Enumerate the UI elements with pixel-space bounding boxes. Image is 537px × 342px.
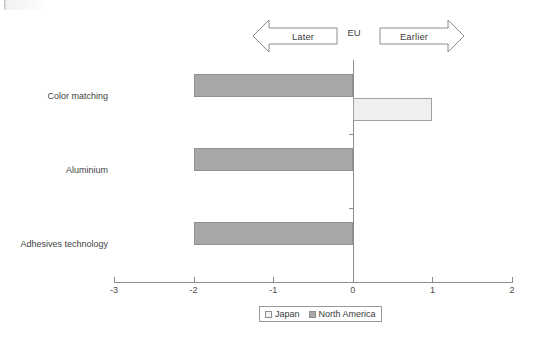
bar-north-america xyxy=(194,74,353,97)
legend-label-north-america: North America xyxy=(319,309,376,319)
x-axis-tick xyxy=(512,277,513,283)
legend-swatch-north-america xyxy=(309,311,316,318)
category-label: Adhesives technology xyxy=(0,239,108,249)
x-axis-tick-label: -3 xyxy=(99,285,129,295)
category-axis-tick xyxy=(349,134,354,135)
bar-chart: Later EU Earlier -3-2-1012Color matching… xyxy=(0,0,537,342)
zero-axis-line xyxy=(353,60,354,283)
category-label: Aluminium xyxy=(0,165,108,175)
bar-north-america xyxy=(194,222,353,245)
legend-item-north-america: North America xyxy=(309,309,376,319)
chart-legend: Japan North America xyxy=(259,306,382,322)
x-axis-tick xyxy=(353,277,354,283)
category-axis-tick xyxy=(349,208,354,209)
x-axis-tick xyxy=(432,277,433,283)
x-axis-line xyxy=(114,282,512,283)
x-axis-tick xyxy=(114,277,115,283)
bar-japan xyxy=(353,98,433,121)
x-axis-tick-label: -2 xyxy=(179,285,209,295)
x-axis-tick-label: 0 xyxy=(338,285,368,295)
plot-area: -3-2-1012Color matchingAluminiumAdhesive… xyxy=(0,0,537,342)
legend-swatch-japan xyxy=(265,311,272,318)
legend-item-japan: Japan xyxy=(265,309,300,319)
x-axis-tick-label: -1 xyxy=(258,285,288,295)
x-axis-tick-label: 1 xyxy=(417,285,447,295)
category-label: Color matching xyxy=(0,91,108,101)
x-axis-tick xyxy=(273,277,274,283)
x-axis-tick xyxy=(194,277,195,283)
legend-label-japan: Japan xyxy=(275,309,300,319)
bar-north-america xyxy=(194,148,353,171)
x-axis-tick-label: 2 xyxy=(497,285,527,295)
